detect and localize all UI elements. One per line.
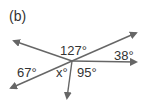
angle-label-95: 95°: [77, 66, 97, 79]
figure-label: (b): [9, 10, 26, 23]
angle-label-67: 67°: [17, 66, 37, 79]
angle-label-127: 127°: [60, 44, 87, 57]
ray-down: [67, 61, 72, 98]
angle-label-38: 38°: [114, 49, 134, 62]
angle-label-x: x°: [56, 66, 68, 79]
angle-diagram: (b) 127° 38° 67° x° 95°: [0, 0, 144, 106]
